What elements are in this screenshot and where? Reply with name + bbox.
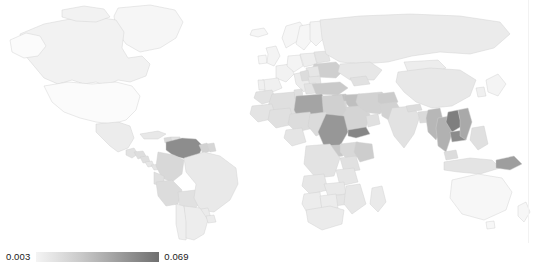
region-malaysia[interactable] bbox=[444, 150, 458, 160]
region-australia[interactable] bbox=[450, 174, 512, 220]
region-ireland[interactable] bbox=[258, 55, 267, 64]
region-vietnam[interactable] bbox=[458, 108, 472, 140]
region-united-states[interactable] bbox=[44, 82, 140, 124]
region-mozambique[interactable] bbox=[344, 184, 366, 214]
region-russia[interactable] bbox=[320, 14, 510, 64]
region-tasmania[interactable] bbox=[486, 221, 495, 229]
region-madagascar[interactable] bbox=[370, 186, 386, 212]
legend-gradient-bar[interactable] bbox=[36, 252, 159, 262]
region-china[interactable] bbox=[396, 68, 476, 108]
region-south-korea[interactable] bbox=[476, 87, 486, 97]
colorbar-legend[interactable]: 0.003 0.069 bbox=[0, 246, 538, 268]
region-indonesia[interactable] bbox=[444, 158, 500, 174]
region-philippines[interactable] bbox=[470, 126, 488, 150]
region-cuba[interactable] bbox=[140, 131, 166, 139]
region-south-africa[interactable] bbox=[306, 206, 344, 230]
region-greenland[interactable] bbox=[114, 5, 183, 52]
map-frame-right-rule bbox=[528, 0, 529, 243]
region-mexico[interactable] bbox=[96, 122, 134, 152]
region-uruguay[interactable] bbox=[206, 215, 216, 223]
region-japan[interactable] bbox=[486, 74, 506, 96]
legend-max-label: 0.069 bbox=[164, 252, 188, 262]
region-india[interactable] bbox=[388, 106, 420, 148]
world-map-canvas[interactable] bbox=[0, 0, 538, 243]
region-united-kingdom[interactable] bbox=[266, 46, 280, 66]
region-oman[interactable] bbox=[366, 114, 380, 127]
region-iceland[interactable] bbox=[250, 28, 268, 37]
legend-min-label: 0.003 bbox=[6, 252, 30, 262]
region-portugal[interactable] bbox=[258, 80, 265, 90]
region-uzbekistan[interactable] bbox=[350, 76, 370, 86]
region-nigeria[interactable] bbox=[284, 128, 306, 146]
world-map-svg[interactable] bbox=[0, 0, 538, 243]
region-nepal[interactable] bbox=[406, 104, 422, 112]
region-papua-new-guinea[interactable] bbox=[496, 156, 522, 170]
region-turkey[interactable] bbox=[312, 82, 348, 95]
choropleth-figure: 0.003 0.069 bbox=[0, 0, 538, 271]
